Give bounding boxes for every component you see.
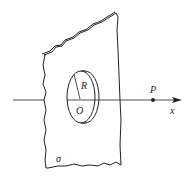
label-center: O xyxy=(76,105,83,116)
label-axis: x xyxy=(169,105,175,116)
label-radius: R xyxy=(80,80,87,91)
label-point: P xyxy=(149,84,156,95)
diagram-canvas: R O P x σ xyxy=(0,0,189,184)
point-p xyxy=(151,98,155,102)
